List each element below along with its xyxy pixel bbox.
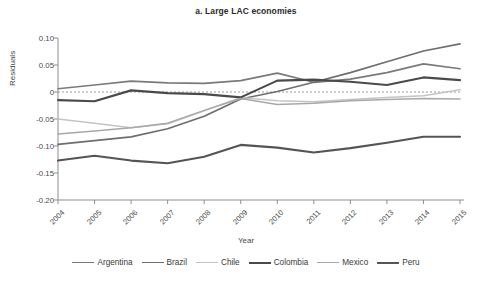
legend-swatch-peru xyxy=(377,262,399,264)
legend-swatch-chile xyxy=(196,262,218,263)
legend-item-chile[interactable]: Chile xyxy=(196,258,240,267)
chart-figure: a. Large LAC economies Residuals Year 0.… xyxy=(0,0,492,287)
legend-swatch-brazil xyxy=(142,262,164,263)
legend-label-brazil: Brazil xyxy=(167,258,187,267)
legend-swatch-colombia xyxy=(249,262,271,264)
legend-label-peru: Peru xyxy=(402,258,419,267)
legend-label-mexico: Mexico xyxy=(342,258,368,267)
legend-item-peru[interactable]: Peru xyxy=(377,258,419,267)
legend-swatch-argentina xyxy=(72,262,94,263)
series-line-peru xyxy=(58,137,460,163)
legend-item-argentina[interactable]: Argentina xyxy=(72,258,132,267)
legend-item-brazil[interactable]: Brazil xyxy=(142,258,187,267)
legend-swatch-mexico xyxy=(317,262,339,263)
legend-item-mexico[interactable]: Mexico xyxy=(317,258,368,267)
plot-canvas xyxy=(0,0,492,287)
chart-legend: ArgentinaBrazilChileColombiaMexicoPeru xyxy=(0,258,492,267)
legend-label-colombia: Colombia xyxy=(274,258,309,267)
legend-item-colombia[interactable]: Colombia xyxy=(249,258,309,267)
legend-label-argentina: Argentina xyxy=(97,258,132,267)
series-line-argentina xyxy=(58,64,460,89)
series-line-colombia xyxy=(58,77,460,101)
legend-label-chile: Chile xyxy=(221,258,240,267)
series-line-mexico xyxy=(58,98,460,134)
